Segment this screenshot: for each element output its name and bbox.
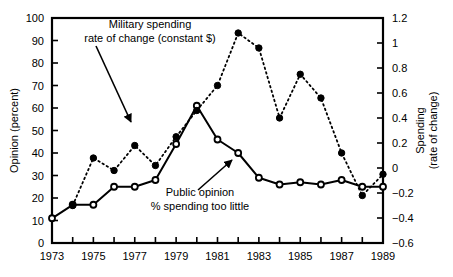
series-line-2	[73, 33, 383, 206]
y-axis-tick-label: 70	[32, 80, 44, 92]
data-point-open	[215, 137, 221, 143]
x-axis-tick-label: 1975	[81, 250, 105, 262]
y-axis-tick-label: 100	[26, 12, 44, 24]
opinion-spending-line-chart: 0102030405060708090100−0.6−0.4−0.200.20.…	[0, 0, 453, 277]
y2-axis-tick-label: −0.4	[392, 212, 414, 224]
x-axis-tick-label: 1983	[247, 250, 271, 262]
x-axis-tick-label: 1987	[329, 250, 353, 262]
data-point-open	[49, 215, 55, 221]
data-point-filled	[318, 95, 324, 101]
data-point-filled	[173, 134, 179, 140]
y-axis-tick-label: 40	[32, 147, 44, 159]
military-spending-annotation-arrow	[96, 46, 131, 122]
y2-axis-title-line1: Spending	[414, 107, 426, 154]
data-point-filled	[194, 107, 200, 113]
x-axis-tick-label: 1979	[164, 250, 188, 262]
chart-container: 0102030405060708090100−0.6−0.4−0.200.20.…	[0, 0, 453, 277]
y-axis-tick-label: 30	[32, 170, 44, 182]
y-axis-tick-label: 80	[32, 57, 44, 69]
x-axis-tick-label: 1973	[40, 250, 64, 262]
y2-axis-tick-label: 0.8	[392, 62, 407, 74]
data-point-open	[297, 179, 303, 185]
data-point-filled	[235, 30, 241, 36]
x-axis-tick-label: 1989	[371, 250, 395, 262]
y2-axis-tick-label: −0.6	[392, 237, 414, 249]
x-axis-tick-label: 1981	[205, 250, 229, 262]
data-point-filled	[90, 155, 96, 161]
data-point-open	[90, 202, 96, 208]
data-point-open	[152, 177, 158, 183]
data-point-filled	[214, 82, 220, 88]
data-point-open	[111, 184, 117, 190]
data-point-filled	[69, 202, 75, 208]
x-axis-tick-label: 1985	[288, 250, 312, 262]
data-point-filled	[359, 192, 365, 198]
y2-axis-tick-label: 0	[392, 162, 398, 174]
x-axis-tick-label: 1977	[123, 250, 147, 262]
data-point-filled	[380, 171, 386, 177]
y2-axis-tick-label: 0.2	[392, 137, 407, 149]
data-point-filled	[256, 45, 262, 51]
data-point-open	[256, 175, 262, 181]
y2-axis-tick-label: 1.2	[392, 12, 407, 24]
y-axis-tick-label: 20	[32, 192, 44, 204]
data-point-open	[173, 141, 179, 147]
data-point-open	[132, 184, 138, 190]
data-point-open	[318, 182, 324, 188]
military-spending-annotation-line2: rate of change (constant $)	[84, 32, 215, 44]
military-spending-annotation-line1: Military spending	[109, 18, 192, 30]
data-point-filled	[297, 71, 303, 77]
data-point-open	[235, 150, 241, 156]
y-axis-tick-label: 50	[32, 125, 44, 137]
y-axis-tick-label: 0	[38, 237, 44, 249]
data-point-filled	[276, 115, 282, 121]
data-point-open	[339, 177, 345, 183]
data-point-filled	[152, 162, 158, 168]
y2-axis-tick-label: 0.6	[392, 87, 407, 99]
y2-axis-title-line2: (rate of change)	[427, 92, 439, 170]
data-point-open	[380, 184, 386, 190]
y-axis-tick-label: 60	[32, 102, 44, 114]
data-point-open	[359, 184, 365, 190]
y-axis-tick-label: 10	[32, 215, 44, 227]
y2-axis-tick-label: 1	[392, 37, 398, 49]
y2-axis-tick-label: −0.2	[392, 187, 414, 199]
public-opinion-annotation-line2: % spending too little	[151, 200, 249, 212]
y2-axis-tick-label: 0.4	[392, 112, 407, 124]
data-point-filled	[338, 150, 344, 156]
y-axis-title: Opinion (percent)	[8, 88, 20, 173]
y-axis-tick-label: 90	[32, 35, 44, 47]
data-point-open	[277, 182, 283, 188]
data-point-filled	[132, 142, 138, 148]
data-point-filled	[111, 167, 117, 173]
